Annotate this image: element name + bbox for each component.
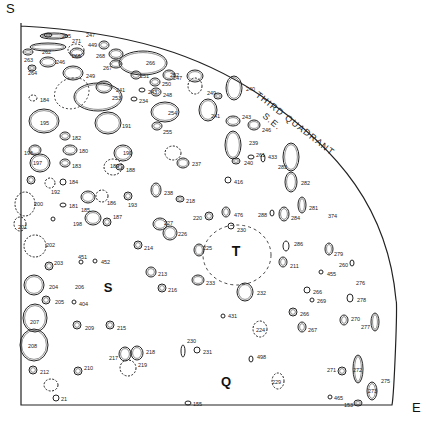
crater: 211 xyxy=(279,257,299,269)
crater: 208 xyxy=(20,329,48,361)
crater-label: 207 xyxy=(30,319,39,325)
crater: 205 xyxy=(42,296,64,305)
crater: 237 xyxy=(177,158,201,168)
crater-label: 288 xyxy=(258,212,267,218)
crater-label: 184 xyxy=(69,179,78,185)
quadrant-frame xyxy=(21,23,397,405)
crater-label: 230 xyxy=(187,338,196,344)
crater: 268 xyxy=(96,49,123,59)
crater-label: 231 xyxy=(203,349,212,355)
crater-rim xyxy=(23,304,47,332)
crater-rim xyxy=(289,308,297,316)
crater-inner-rim xyxy=(111,51,122,58)
crater-label: 281 xyxy=(309,205,318,211)
crater-label: 271 xyxy=(327,367,336,373)
crater-inner-rim xyxy=(207,214,212,219)
crater-label: 224 xyxy=(256,327,265,333)
crater-inner-rim xyxy=(189,72,202,81)
crater: 273 xyxy=(367,382,377,400)
crater: 449 xyxy=(88,41,109,49)
crater-label: 431 xyxy=(228,313,237,319)
crater-inner-rim xyxy=(44,298,49,303)
crater-inner-rim xyxy=(126,194,131,199)
crater: 191 xyxy=(95,112,131,134)
crater: 180 xyxy=(63,145,88,155)
crater-inner-rim xyxy=(291,310,296,315)
crater: 207 xyxy=(23,304,47,332)
crater-inner-rim xyxy=(216,95,221,98)
crater-rim xyxy=(176,196,184,202)
crater: 198 xyxy=(73,211,101,227)
crater-inner-rim xyxy=(287,174,296,191)
crater-rim xyxy=(120,360,136,376)
crater-rim xyxy=(45,178,55,188)
crater: 213 xyxy=(146,267,167,277)
crater: 498 xyxy=(249,354,266,362)
crater: 465 xyxy=(328,395,343,401)
crater: 197 xyxy=(30,154,50,172)
crater-rim xyxy=(139,88,145,92)
crater-label: 267 xyxy=(308,327,317,333)
crater: 451 xyxy=(78,254,87,264)
crater: 238 xyxy=(151,183,173,197)
crater-inner-rim xyxy=(30,67,35,70)
crater-rim xyxy=(103,218,111,226)
crater-label: 182 xyxy=(72,135,81,141)
crater-inner-rim xyxy=(165,228,176,239)
crater-rim xyxy=(304,287,310,293)
crater-label: 452 xyxy=(101,259,110,265)
crater-label: 206 xyxy=(75,284,84,290)
crater-label: 246 xyxy=(262,127,271,133)
crater-label: 251 xyxy=(140,73,149,79)
crater: 217 xyxy=(109,347,131,361)
crater-inner-rim xyxy=(108,323,113,328)
crater-inner-rim xyxy=(300,324,305,331)
crater-inner-rim xyxy=(250,122,259,129)
crater: 229 xyxy=(272,373,284,389)
crater-inner-rim xyxy=(342,317,347,324)
crater-label: 416 xyxy=(234,179,243,185)
crater-inner-rim xyxy=(76,369,81,374)
crater-rim xyxy=(350,260,354,266)
crater-label: 219 xyxy=(138,362,147,368)
crater: 455 xyxy=(319,270,336,277)
crater-inner-rim xyxy=(62,134,69,139)
crater-label: 191 xyxy=(122,123,131,129)
crater-label: 214 xyxy=(144,245,153,251)
region-label: Q xyxy=(221,374,231,389)
crater-label: 225 xyxy=(203,245,212,251)
crater-rim xyxy=(194,347,200,353)
crater-rim xyxy=(72,300,76,304)
crater-label: 272 xyxy=(353,367,362,373)
crater-inner-rim xyxy=(154,124,161,129)
crater-rim xyxy=(124,192,132,200)
crater-label: 247 xyxy=(173,75,182,81)
crater-inner-rim xyxy=(148,269,155,276)
east-marker: E xyxy=(412,400,421,415)
crater: 286 xyxy=(283,241,303,251)
crater-label: 465 xyxy=(334,395,343,401)
crater-inner-rim xyxy=(121,349,130,360)
crater-label: 186 xyxy=(107,200,116,206)
crater-label: 187 xyxy=(113,214,122,220)
crater: 204 xyxy=(24,275,58,295)
crater-label: 184 xyxy=(40,97,49,103)
crater-rim xyxy=(85,211,101,225)
crater-label: 262 xyxy=(42,49,51,55)
crater-label: 243 xyxy=(242,114,251,120)
crater: 255 xyxy=(152,122,172,135)
crater-label: 476 xyxy=(234,212,243,218)
crater: 220 xyxy=(193,212,213,221)
crater-inner-rim xyxy=(83,193,94,202)
crater-rim xyxy=(249,356,253,362)
crater-label: 269 xyxy=(317,298,326,304)
crater: 233 xyxy=(192,275,215,286)
crater-label: 197 xyxy=(33,160,42,166)
crater-label: 246 xyxy=(56,59,65,65)
crater xyxy=(51,217,55,221)
crater: 277 xyxy=(361,313,379,331)
crater: 240 xyxy=(226,76,255,100)
region-layer: TSQ xyxy=(104,243,241,389)
crater: 184 xyxy=(60,179,78,185)
crater-rim xyxy=(328,395,332,399)
